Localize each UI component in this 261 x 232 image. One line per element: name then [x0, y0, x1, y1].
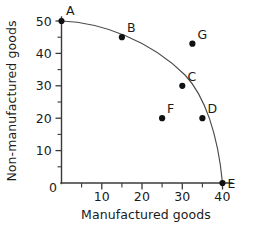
y-tick-label-50: 50: [36, 14, 52, 29]
point-label-c: C: [188, 69, 197, 84]
point-label-b: B: [127, 20, 136, 35]
y-tick-label-30: 30: [36, 78, 52, 93]
point-marker-e: [219, 180, 225, 186]
chart-canvas: 50 40 30 20 10 0 10 20 30 40 A B: [0, 0, 261, 232]
y-tick-label-20: 20: [36, 111, 52, 126]
origin-label: 0: [49, 180, 57, 195]
x-tick-label-30: 30: [174, 189, 190, 204]
point-label-f: F: [167, 101, 174, 116]
ppf-chart: 50 40 30 20 10 0 10 20 30 40 A B: [0, 0, 261, 232]
y-tick-label-10: 10: [36, 143, 52, 158]
point-label-e: E: [228, 176, 236, 191]
y-tick-label-40: 40: [36, 46, 52, 61]
x-tick-label-20: 20: [134, 189, 150, 204]
y-axis-title: Non-manufactured goods: [4, 20, 19, 181]
point-marker-d: [199, 115, 205, 121]
point-marker-g: [189, 41, 195, 47]
point-label-g: G: [198, 27, 208, 42]
point-label-a: A: [66, 3, 75, 18]
point-marker-c: [179, 83, 185, 89]
point-marker-b: [119, 34, 125, 40]
x-tick-label-10: 10: [94, 189, 110, 204]
point-label-d: D: [208, 101, 218, 116]
point-marker-a: [58, 18, 64, 24]
x-tick-label-40: 40: [214, 189, 230, 204]
x-axis-title: Manufactured goods: [81, 207, 211, 222]
point-marker-f: [159, 115, 165, 121]
